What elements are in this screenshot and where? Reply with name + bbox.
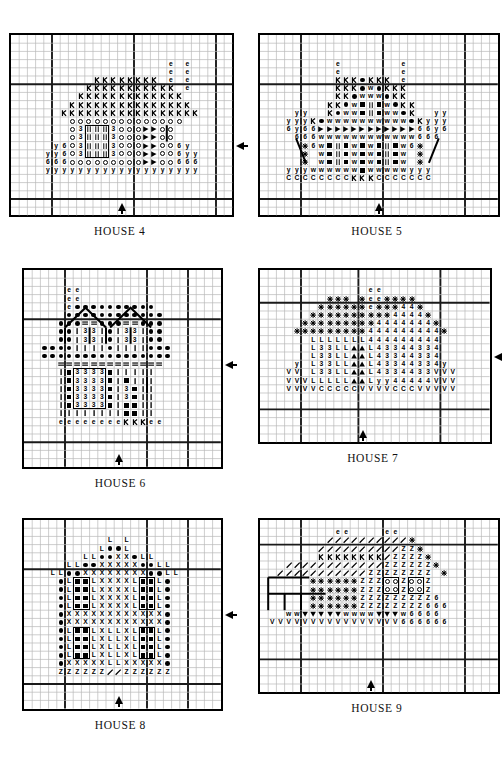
stitch-L: L [90,651,98,659]
stitch-grid-house7[interactable]: eeeee4444444444444444444444LLLLLLL444444… [258,268,492,444]
stitch-3: 3 [77,125,85,133]
stitch-L: L [334,377,342,385]
stitch-o-circle [77,158,85,166]
stitch-o-circle [68,125,76,133]
stitch-X: X [90,618,98,626]
stitch-3: 3 [77,150,85,158]
chart-panel-house7[interactable]: eeeee4444444444444444444444LLLLLLL444444… [258,268,492,444]
stitch-asterisk-star [350,602,358,610]
stitch-3: 3 [416,360,424,368]
stitch-o-circle [134,133,142,141]
stitch-w: w [399,133,407,141]
stitch-X: X [114,594,122,602]
stitch-Z: Z [375,569,383,577]
stitch-grid-house5[interactable]: eeeeewwwwwwyywwwwyyyyywwwwwwwwwwyyy6y666… [258,33,500,217]
stitch-L: L [334,368,342,376]
chart-panel-house9[interactable]: eeeeZZZZZZZZZZZZZZZZZZZZZZZZZZZZZZZZZZZZ… [258,518,500,694]
stitch-diagonal-slash [350,536,358,544]
stitch-X: X [114,561,122,569]
stitch-grid-house6[interactable]: eeeee333333333333333333333333333333eeeee… [22,268,223,469]
stitch-y: y [101,166,109,174]
stitch-e: e [334,60,342,68]
stitch-grid-house4[interactable]: eeeeeee3333y6336yyy6336yy666666yyyyyyyyy… [9,33,234,217]
stitch-4: 4 [408,311,416,319]
stitch-L: L [106,627,114,635]
stitch-asterisk-star [309,311,317,319]
stitch-k-leaf [317,553,325,561]
stitch-filled-dot [65,327,73,335]
stitch-k-leaf [383,76,391,84]
stitch-w: w [358,117,366,125]
stitch-asterisk-star [334,327,342,335]
stitch-X: X [122,643,130,651]
stitch-3: 3 [383,360,391,368]
stitch-diagonal-slash [334,561,342,569]
stitch-L: L [90,635,98,643]
chart-panel-house5[interactable]: eeeeewwwwwwyywwwwyyyyywwwwwwwwwwyyy6y666… [258,33,500,217]
stitch-asterisk-star [326,602,334,610]
stitch-asterisk-star [309,594,317,602]
stitch-diagonal-slash [326,569,334,577]
stitch-k-leaf [126,92,134,100]
stitch-k-leaf [126,109,134,117]
stitch-asterisk-star [358,327,366,335]
stitch-X: X [106,586,114,594]
stitch-vertical-bar [57,409,65,417]
stitch-vertical-bar [139,344,147,352]
stitch-w: w [391,117,399,125]
stitch-filled-dot [147,344,155,352]
stitch-w: w [342,133,350,141]
chart-panel-house8[interactable]: LLLLLLXXLLLLXXXXXLLLLXXXXXXXXLLLLXXXXLLL… [22,518,223,711]
stitch-4: 4 [399,311,407,319]
stitch-w: w [326,117,334,125]
stitch-k-leaf [142,101,150,109]
stitch-y: y [44,166,52,174]
stitch-L: L [309,360,317,368]
stitch-filled-dot [106,344,114,352]
stitch-4: 4 [424,377,432,385]
stitch-o-circle [118,117,126,125]
stitch-asterisk-star [358,295,366,303]
stitch-3: 3 [416,352,424,360]
stitch-filled-square [375,101,383,109]
stitch-k-leaf [326,101,334,109]
stitch-w: w [350,133,358,141]
stitch-L: L [326,336,334,344]
stitch-k-leaf [183,109,191,117]
stitch-half-filled-triangle [399,125,407,133]
stitch-L: L [367,368,375,376]
stitch-vertical-bar [114,327,122,335]
stitch-filled-square [122,377,130,385]
stitch-Z: Z [416,561,424,569]
chart-panel-house6[interactable]: eeeee333333333333333333333333333333eeeee… [22,268,223,469]
stitch-w: w [317,150,325,158]
stitch-k-leaf [150,109,158,117]
stitch-V: V [309,385,317,393]
stitch-e: e [399,68,407,76]
stitch-asterisk-star [342,594,350,602]
stitch-w: w [391,109,399,117]
stitch-grid-house8[interactable]: LLLLLLXXLLLLXXXXXLLLLXXXXXXXXLLLLXXXXLLL… [22,518,223,711]
stitch-L: L [122,545,130,553]
stitch-X: X [98,651,106,659]
center-marker-bottom-stem [362,436,364,441]
chart-panel-house4[interactable]: eeeeeee3333y6336yyy6336yy666666yyyyyyyyy… [9,33,234,217]
stitch-L: L [172,569,180,577]
stitch-k-leaf [309,117,317,125]
stitch-V: V [383,385,391,393]
stitch-e: e [342,528,350,536]
stitch-w: w [350,158,358,166]
stitch-V: V [293,385,301,393]
stitch-V: V [424,385,432,393]
stitch-y: y [150,166,158,174]
stitch-6: 6 [301,125,309,133]
stitch-filled-dot [155,327,163,335]
stitch-grid-house9[interactable]: eeeeZZZZZZZZZZZZZZZZZZZZZZZZZZZZZZZZZZZZ… [258,518,500,694]
stitch-double-bar [334,158,342,166]
stitch-asterisk-star [408,536,416,544]
stitch-L: L [326,377,334,385]
stitch-L: L [155,651,163,659]
stitch-Z: Z [163,668,171,676]
stitch-V: V [383,618,391,626]
stitch-e: e [367,295,375,303]
